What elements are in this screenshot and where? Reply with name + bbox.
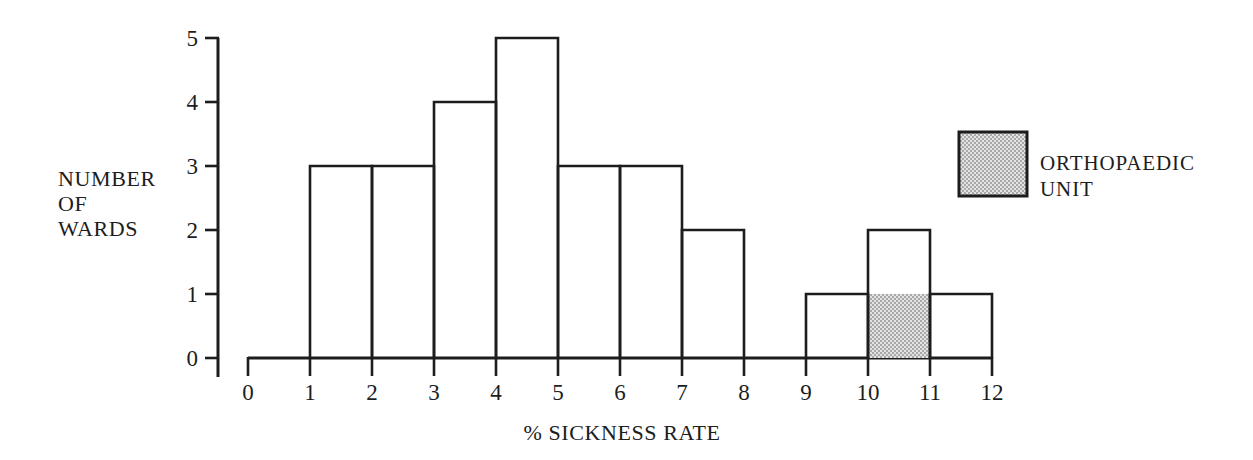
bar-5-6 xyxy=(558,166,620,358)
y-axis-title-line-1: NUMBER xyxy=(58,166,156,191)
x-tick-label-0: 0 xyxy=(242,380,254,405)
legend-label-line-2: UNIT xyxy=(1040,177,1094,201)
y-axis-title-line-3: WARDS xyxy=(58,216,138,241)
bar-9-10 xyxy=(806,294,868,358)
y-tick-label-5: 5 xyxy=(187,26,199,51)
y-tick-label-1: 1 xyxy=(187,282,199,307)
bar-11-12 xyxy=(930,294,992,358)
bar-7-8 xyxy=(682,230,744,358)
x-tick-label-5: 5 xyxy=(552,380,564,405)
x-tick-label-1: 1 xyxy=(304,380,316,405)
y-tick-label-0: 0 xyxy=(187,346,199,371)
histogram-bars xyxy=(310,38,992,358)
x-tick-label-12: 12 xyxy=(981,380,1004,405)
histogram-figure: 5 4 3 2 1 0 NUMBER OF WARDS xyxy=(0,0,1253,460)
legend: ORTHOPAEDIC UNIT xyxy=(959,132,1195,201)
x-tick-label-11: 11 xyxy=(919,380,941,405)
bar-1-2 xyxy=(310,166,372,358)
histogram-svg: 5 4 3 2 1 0 NUMBER OF WARDS xyxy=(0,0,1253,460)
legend-swatch-orthopaedic-unit xyxy=(959,132,1027,196)
legend-label-line-1: ORTHOPAEDIC xyxy=(1040,151,1195,175)
highlighted-bin-10-11 xyxy=(868,294,930,358)
x-tick-label-6: 6 xyxy=(614,380,626,405)
x-tick-label-7: 7 xyxy=(676,380,688,405)
x-tick-label-4: 4 xyxy=(490,380,502,405)
y-axis: 5 4 3 2 1 0 xyxy=(187,26,220,377)
y-tick-label-4: 4 xyxy=(187,90,199,115)
y-tick-label-3: 3 xyxy=(187,154,199,179)
x-tick-label-8: 8 xyxy=(738,380,750,405)
x-axis: 0 1 2 3 4 5 6 7 8 9 10 11 12 xyxy=(242,357,1003,405)
bar-3-4 xyxy=(434,102,496,358)
bar-4-5 xyxy=(496,38,558,358)
x-tick-label-10: 10 xyxy=(857,380,880,405)
y-axis-title-line-2: OF xyxy=(58,191,87,216)
x-axis-title: % SICKNESS RATE xyxy=(523,420,720,445)
bar-6-7 xyxy=(620,166,682,358)
y-tick-label-2: 2 xyxy=(187,218,199,243)
x-tick-label-9: 9 xyxy=(800,380,812,405)
x-tick-label-3: 3 xyxy=(428,380,440,405)
bar-2-3 xyxy=(372,166,434,358)
y-axis-title: NUMBER OF WARDS xyxy=(58,166,156,241)
x-tick-label-2: 2 xyxy=(366,380,378,405)
